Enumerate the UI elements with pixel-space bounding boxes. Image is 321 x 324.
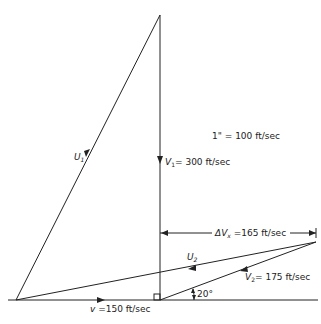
u2-label: U2 (187, 253, 197, 263)
u1-label: U1 (74, 153, 84, 163)
right-angle-mark (154, 294, 160, 300)
v2-vector (160, 242, 316, 300)
v1-label: V1= 300 ft/sec (165, 158, 230, 168)
u1-vector (16, 15, 160, 300)
v1-arrowhead (157, 156, 163, 164)
v-arrowhead (97, 297, 105, 303)
angle-label: 20° (197, 290, 213, 299)
scale-label: 1" = 100 ft/sec (212, 132, 280, 141)
delta-vx-label: ΔVx =165 ft/sec (213, 229, 288, 239)
v2-label: V2= 175 ft/sec (245, 273, 310, 283)
v-label: v =150 ft/sec (90, 305, 151, 314)
velocity-diagram: 1" = 100 ft/sec U1 V1= 300 ft/sec ΔVx =1… (0, 0, 321, 324)
u2-vector (16, 242, 316, 300)
